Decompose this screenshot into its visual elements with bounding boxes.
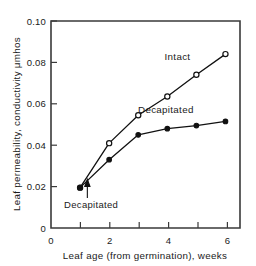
chart-figure: 0.10 0.08 0.06 0.04 0.02 0 0 2 4 6 Leaf … (0, 0, 256, 266)
data-point (194, 123, 199, 128)
x-axis-tick-labels: 0 2 4 6 (48, 235, 230, 246)
y-axis-tick-labels: 0.10 0.08 0.06 0.04 0.02 0 (27, 16, 46, 234)
series-intact-line (80, 54, 225, 188)
x-axis-title: Leaf age (from germination), weeks (63, 250, 227, 261)
data-point (107, 141, 112, 146)
y-axis-title: Leaf permeability, conductivity μmhos (11, 37, 22, 211)
annotation-label-decapitated: Decapitated (64, 199, 118, 210)
y-axis-ticks (51, 21, 57, 187)
y-tick-label-0.06: 0.06 (27, 98, 46, 109)
axes-frame-box (51, 21, 240, 228)
y-tick-label-0.08: 0.08 (27, 57, 46, 68)
series-decapitated (78, 119, 228, 190)
data-point (107, 157, 112, 162)
y-tick-label-0.04: 0.04 (27, 140, 46, 151)
x-tick-label-4: 4 (166, 235, 171, 246)
series-decapitated-markers (78, 119, 228, 190)
data-point (194, 72, 199, 77)
data-point (136, 133, 141, 138)
data-point (223, 119, 228, 124)
plot-frame (51, 21, 240, 228)
x-tick-label-6: 6 (225, 235, 230, 246)
y-tick-label-0.10: 0.10 (27, 16, 46, 27)
y-tick-label-0.02: 0.02 (27, 181, 46, 192)
data-point (165, 126, 170, 131)
x-axis-ticks (80, 222, 227, 228)
x-tick-label-0: 0 (48, 235, 53, 246)
decapitation-annotation: Decapitated (64, 179, 118, 210)
series-label-decapitated: Decapitated (138, 104, 194, 115)
x-tick-label-2: 2 (107, 235, 112, 246)
series-intact (77, 52, 228, 191)
data-point (223, 52, 228, 57)
data-point (165, 94, 170, 99)
series-intact-markers (77, 52, 228, 191)
chart-svg: 0.10 0.08 0.06 0.04 0.02 0 0 2 4 6 Leaf … (0, 0, 256, 266)
series-label-intact: Intact (165, 51, 191, 62)
y-tick-label-0: 0 (41, 223, 46, 234)
data-point (78, 185, 83, 190)
